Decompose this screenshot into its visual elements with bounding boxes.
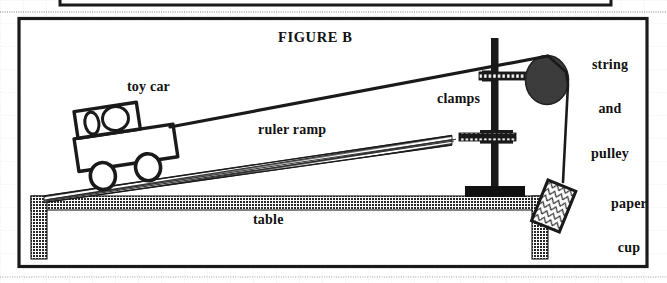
label-string-line-3: pulley: [578, 147, 642, 162]
label-cup-line-2: cup: [596, 241, 662, 256]
stand-base: [465, 186, 525, 197]
stand-rod: [491, 38, 499, 190]
label-ruler-ramp: ruler ramp: [258, 123, 326, 138]
label-paper-cup-with-weights: paper cup with weights: [596, 168, 662, 283]
label-clamps: clamps: [437, 92, 480, 107]
label-cup-line-1: paper: [596, 197, 662, 212]
page-title: FIGURE B: [278, 30, 353, 45]
label-toy-car: toy car: [127, 80, 170, 95]
label-string-and-pulley: string and pulley: [578, 29, 642, 191]
pulley-wheel: [526, 56, 569, 105]
label-table: table: [253, 213, 284, 228]
label-string-line-1: string: [578, 58, 642, 73]
figure-canvas: FIGURE B toy car ruler ramp clamps table…: [0, 0, 667, 283]
car-wheel-rear: [134, 152, 163, 182]
car-wheel-front: [89, 161, 118, 191]
label-string-line-2: and: [578, 102, 642, 117]
